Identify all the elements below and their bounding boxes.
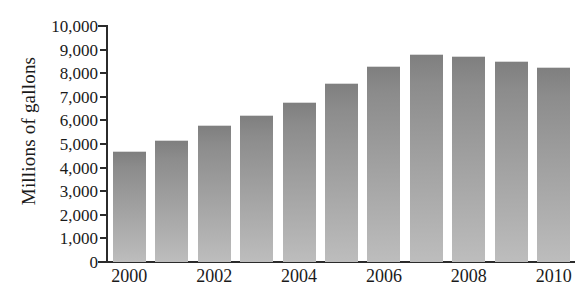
- y-axis-tick-label: 1,000: [34, 230, 98, 247]
- y-axis-tick-mark: [100, 96, 108, 98]
- bar: [410, 54, 443, 262]
- x-axis-tick-label: 2010: [519, 266, 582, 287]
- y-axis-tick-label: 3,000: [34, 183, 98, 200]
- bar: [367, 66, 400, 262]
- y-axis-tick-label: 5,000: [34, 136, 98, 153]
- bar: [325, 83, 358, 262]
- bar: [495, 61, 528, 262]
- bar: [537, 67, 570, 262]
- y-axis-tick-label: 9,000: [34, 41, 98, 58]
- y-axis-tick-mark: [98, 261, 108, 263]
- bar: [240, 115, 273, 263]
- y-axis-tick-mark: [100, 49, 108, 51]
- bar: [283, 102, 316, 262]
- y-axis-tick-mark: [100, 214, 108, 216]
- y-axis-tick-label: 10,000: [34, 18, 98, 35]
- bar: [113, 151, 146, 262]
- bar-chart: Millions of gallons 01,0002,0003,0004,00…: [0, 0, 582, 302]
- y-axis-tick-mark: [100, 167, 108, 169]
- y-axis-tick-mark: [100, 190, 108, 192]
- y-axis-tick-label: 8,000: [34, 65, 98, 82]
- y-axis-tick-label: 6,000: [34, 112, 98, 129]
- bar: [155, 140, 188, 262]
- y-axis-tick-mark: [100, 72, 108, 74]
- y-axis-tick-label: 7,000: [34, 88, 98, 105]
- x-axis-tick-label: 2002: [179, 266, 249, 287]
- y-axis-tick-label: 2,000: [34, 206, 98, 223]
- y-axis-tick-mark: [98, 25, 108, 27]
- x-axis-tick-label: 2008: [434, 266, 504, 287]
- plot-area: [108, 26, 575, 262]
- x-axis-tick-label: 2006: [349, 266, 419, 287]
- y-axis-tick-label: 4,000: [34, 159, 98, 176]
- y-axis-tick-mark: [100, 237, 108, 239]
- bar: [198, 125, 231, 262]
- y-axis-tick-mark: [100, 143, 108, 145]
- x-axis-tick-label-group: 200020022004200620082010: [108, 266, 575, 296]
- y-axis-tick-mark: [100, 119, 108, 121]
- bar: [452, 56, 485, 263]
- x-axis-tick-label: 2000: [94, 266, 164, 287]
- y-axis-tick-label: 0: [34, 254, 98, 271]
- x-axis-tick-label: 2004: [264, 266, 334, 287]
- y-axis-tick-label-group: 01,0002,0003,0004,0005,0006,0007,0008,00…: [34, 26, 98, 262]
